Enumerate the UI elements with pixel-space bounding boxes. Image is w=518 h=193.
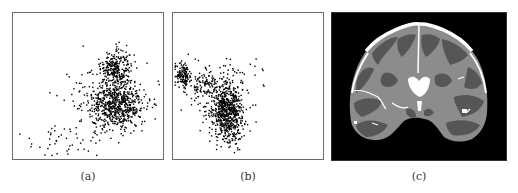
scatter-points-a bbox=[13, 13, 163, 159]
brain-segmentation bbox=[332, 13, 506, 160]
segmented-brain-image bbox=[331, 12, 507, 161]
caption-a: (a) bbox=[68, 170, 108, 183]
caption-c: (c) bbox=[399, 170, 439, 183]
caption-b: (b) bbox=[228, 170, 268, 183]
scatter-plot-a bbox=[12, 12, 164, 160]
scatter-points-b bbox=[173, 13, 323, 159]
scatter-plot-b bbox=[172, 12, 324, 160]
